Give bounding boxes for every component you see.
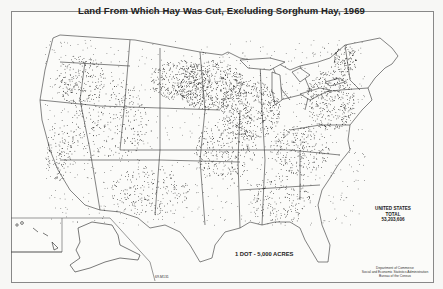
totals-value: 53,203,606 [365, 217, 421, 223]
hay-acreage-dots [45, 40, 365, 225]
great-lakes [240, 58, 345, 105]
map-title: Land From Which Hay Was Cut, Excluding S… [0, 5, 443, 16]
state-boundaries [40, 35, 398, 262]
credit-line-3: Bureau of the Census [355, 274, 435, 278]
alaska-outline [70, 222, 140, 272]
source-credit: Department of Commerce Social and Econom… [355, 266, 435, 278]
inset-boxes [11, 218, 155, 281]
us-map [0, 0, 443, 289]
us-total-label: UNITED STATES TOTAL 53,203,606 [365, 206, 421, 223]
dot-legend: 1 DOT - 5,000 ACRES [235, 251, 293, 257]
map-code: 69-M131 [155, 275, 169, 279]
hawaii-outline [16, 222, 58, 250]
